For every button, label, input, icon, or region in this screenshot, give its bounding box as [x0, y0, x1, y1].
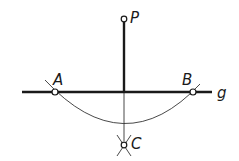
- construction-arc: [45, 80, 200, 124]
- point-a-marker: [52, 89, 58, 95]
- point-b-marker: [190, 89, 196, 95]
- label-c: C: [131, 137, 141, 152]
- point-p-marker: [121, 16, 127, 22]
- label-a: A: [53, 73, 63, 88]
- label-g: g: [217, 86, 227, 101]
- label-b: B: [182, 73, 192, 88]
- point-c-marker: [121, 142, 127, 148]
- construction-canvas: [0, 0, 239, 161]
- label-p: P: [130, 11, 139, 26]
